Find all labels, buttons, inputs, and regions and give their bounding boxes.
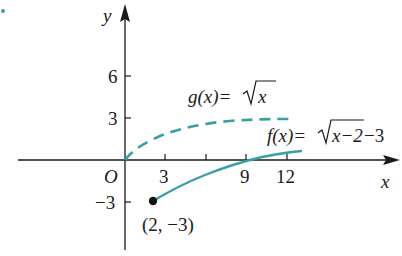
- y-tick-label-6: 6: [108, 66, 118, 87]
- y-tick-label-3: 3: [108, 108, 118, 129]
- endpoint-label: (2, −3): [142, 214, 194, 236]
- bullet-dot: [1, 9, 5, 13]
- x-axis-label: x: [380, 171, 390, 192]
- x-tick-label-12: 12: [276, 166, 295, 187]
- graph-canvas: y x O 3 9 12 6 3 −3 g(x)= x f(x)= x−2 −3…: [0, 0, 402, 256]
- x-tick-label-9: 9: [240, 166, 250, 187]
- f-label-prefix: f(x)=: [267, 125, 306, 147]
- y-axis: [120, 4, 131, 250]
- origin-label: O: [104, 166, 118, 187]
- endpoint-marker: [149, 197, 157, 205]
- f-label-radicand: x−2: [331, 125, 363, 146]
- x-axis: [18, 154, 400, 165]
- g-function-label: g(x)= x: [188, 81, 276, 108]
- f-function-label: f(x)= x−2 −3: [267, 120, 384, 147]
- x-tick-label-3: 3: [159, 166, 169, 187]
- f-label-suffix: −3: [364, 125, 384, 146]
- y-tick-label-neg3: −3: [95, 192, 115, 213]
- g-label-prefix: g(x)=: [188, 86, 231, 108]
- g-label-radicand: x: [257, 86, 267, 107]
- y-axis-label: y: [101, 5, 112, 26]
